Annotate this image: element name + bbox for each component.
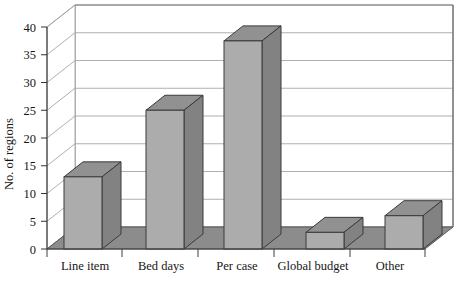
y-tick-label-0: 0 xyxy=(30,243,36,257)
bar-per-case xyxy=(224,26,281,249)
x-label-line-item: Line item xyxy=(61,259,110,273)
y-tick-label-35: 35 xyxy=(24,48,37,62)
y-tick-label-5: 5 xyxy=(30,215,36,229)
x-label-bed-days: Bed days xyxy=(138,259,184,273)
y-tick-label-30: 30 xyxy=(24,76,37,90)
y-tick-label-40: 40 xyxy=(24,21,37,35)
y-tick-label-15: 15 xyxy=(24,159,37,173)
y-tick-label-20: 20 xyxy=(24,132,37,146)
x-label-per-case: Per case xyxy=(216,259,258,273)
bar-line-item xyxy=(64,162,121,249)
chart-canvas: 0 5 10 15 20 25 30 35 40 No. of regions xyxy=(0,0,458,282)
y-tick-label-25: 25 xyxy=(24,104,37,118)
y-axis-title: No. of regions xyxy=(2,118,16,190)
x-label-global-budget: Global budget xyxy=(277,259,349,273)
bar-bed-days xyxy=(146,95,203,249)
y-tick-label-10: 10 xyxy=(24,187,37,201)
x-label-other: Other xyxy=(376,259,405,273)
y-axis-title-text: No. of regions xyxy=(2,118,16,190)
bar-chart: 0 5 10 15 20 25 30 35 40 No. of regions xyxy=(0,0,458,282)
